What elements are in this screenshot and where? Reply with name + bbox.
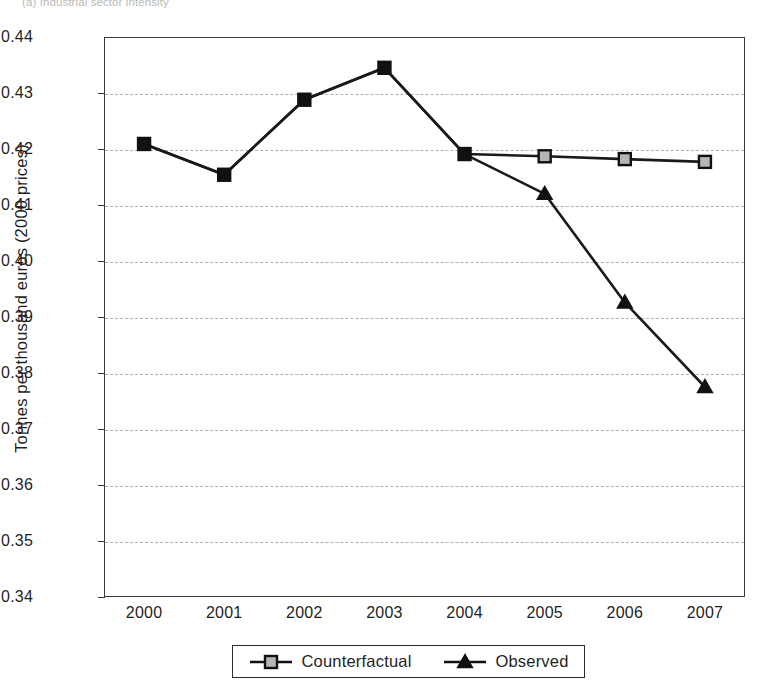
data-point-marker [537,186,552,199]
data-point-marker [459,148,471,160]
series-line-observed [144,68,705,387]
y-tick-label: 0.38 [0,364,33,382]
x-tick-label: 2001 [179,604,269,622]
x-tick-label: 2000 [99,604,189,622]
y-tick-label: 0.42 [0,140,33,158]
series-layer [104,37,745,597]
data-point-marker [218,169,230,181]
y-tick-label: 0.37 [0,420,33,438]
x-tick-label: 2005 [500,604,590,622]
x-tick-label: 2003 [339,604,429,622]
y-tick-label: 0.40 [0,252,33,270]
y-tick-label: 0.44 [0,28,33,46]
chart-figure: (a) Industrial sector intensity Tonnes p… [0,0,782,688]
x-tick-label: 2002 [259,604,349,622]
data-point-marker [539,150,551,162]
y-tick-label: 0.35 [0,532,33,550]
y-tick-label: 0.36 [0,476,33,494]
y-tick-label: 0.39 [0,308,33,326]
x-tick-label: 2006 [580,604,670,622]
legend-entry: Observed [442,652,568,671]
triangle-marker [442,653,488,671]
y-tick-mark [98,597,105,598]
legend-entry: Counterfactual [248,652,411,671]
x-tick-label: 2004 [420,604,510,622]
y-tick-label: 0.41 [0,196,33,214]
data-point-marker [138,138,150,150]
y-tick-label: 0.43 [0,84,33,102]
x-tick-label: 2007 [660,604,750,622]
data-point-marker [378,62,390,74]
data-point-marker [699,156,711,168]
figure-caption: (a) Industrial sector intensity [22,0,342,9]
data-point-marker [298,94,310,106]
legend-label: Counterfactual [301,652,411,671]
square-marker [248,653,294,671]
chart-legend: CounterfactualObserved [232,645,585,678]
legend-label: Observed [495,652,568,671]
y-tick-label: 0.34 [0,588,33,606]
data-point-marker [619,153,631,165]
